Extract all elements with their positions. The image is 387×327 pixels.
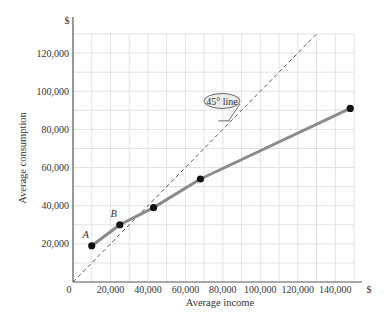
series-group: AB — [82, 105, 354, 250]
y-axis-label: Average consumption — [17, 111, 28, 203]
reference-line-label: 45° line — [206, 96, 238, 107]
y-tick-label: 120,000 — [37, 48, 70, 59]
grid — [73, 34, 354, 282]
y-tick-label: 40,000 — [42, 200, 70, 211]
x-tick-label: 0 — [67, 284, 72, 295]
y-axis-unit: $ — [65, 15, 70, 26]
y-tick-label: 20,000 — [42, 238, 70, 249]
data-point-label: A — [82, 229, 90, 240]
data-point — [197, 175, 204, 182]
x-tick-label: 140,000 — [319, 284, 352, 295]
data-point — [88, 242, 95, 249]
x-tick-label: 120,000 — [282, 284, 315, 295]
y-tick-label: 100,000 — [37, 86, 70, 97]
reference-line-45-degree — [73, 34, 317, 282]
chart: 020,00040,00060,00080,000100,000120,0001… — [0, 0, 387, 327]
x-tick-label: 40,000 — [134, 284, 162, 295]
data-point — [116, 221, 123, 228]
x-tick-label: 20,000 — [97, 284, 125, 295]
x-axis-label: Average income — [186, 297, 255, 308]
reference-line-leader — [218, 120, 229, 121]
x-tick-label: 80,000 — [209, 284, 237, 295]
tick-labels: 020,00040,00060,00080,000100,000120,0001… — [37, 48, 352, 295]
data-point — [347, 105, 354, 112]
reference-line-group: 45° line — [73, 34, 317, 282]
data-point — [150, 204, 157, 211]
y-tick-label: 60,000 — [42, 162, 70, 173]
data-point-label: B — [111, 208, 118, 219]
x-tick-label: 100,000 — [244, 284, 277, 295]
x-axis-unit: $ — [367, 284, 372, 295]
x-tick-label: 60,000 — [172, 284, 200, 295]
y-tick-label: 80,000 — [42, 124, 70, 135]
axes — [73, 17, 362, 282]
